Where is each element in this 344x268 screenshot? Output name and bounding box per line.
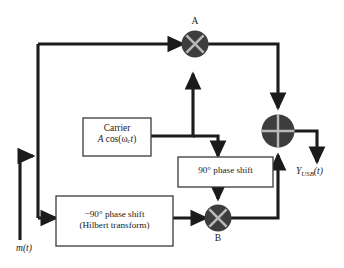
- wire-input-to-trunk: [20, 156, 33, 240]
- ssb-modulator-diagram: Carrier A cos(ωct) 90° phase shift −90° …: [0, 0, 344, 268]
- summing-junction-shape: [262, 115, 295, 148]
- carrier-box: [83, 118, 151, 156]
- wire-carrier-to-multiplier-a: [151, 74, 193, 136]
- multiplier-a-shape: [182, 31, 209, 58]
- wire-summer-to-output: [294, 131, 317, 162]
- plus-90-box: [178, 157, 273, 187]
- diagram-canvas: [0, 0, 344, 268]
- wire-multiplier-a-to-summer: [207, 44, 278, 108]
- hilbert-box: [56, 196, 173, 246]
- multiplier-b-shape: [205, 205, 232, 232]
- wire-carrier-to-phase-shift: [193, 136, 218, 156]
